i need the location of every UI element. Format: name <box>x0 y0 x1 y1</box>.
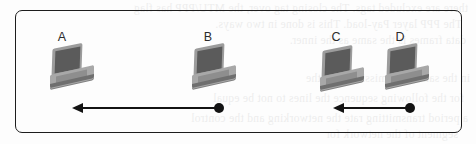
arrow-shaft <box>341 107 409 109</box>
arrow-d-to-c <box>333 102 415 114</box>
node-label-b: B <box>198 30 218 44</box>
laptop-icon-b <box>192 46 238 88</box>
arrow-b-to-a <box>72 102 224 114</box>
arrow-source-dot <box>214 103 225 114</box>
node-label-a: A <box>52 30 72 44</box>
laptop-icon-d <box>385 46 431 88</box>
arrow-shaft <box>80 107 218 109</box>
laptop-icon-c <box>320 48 366 90</box>
arrow-source-dot <box>405 103 416 114</box>
figure-container: there are excluded tags. The closing tag… <box>0 0 476 144</box>
node-label-c: C <box>326 30 346 44</box>
laptop-icon-a <box>50 46 96 88</box>
node-label-d: D <box>390 30 410 44</box>
